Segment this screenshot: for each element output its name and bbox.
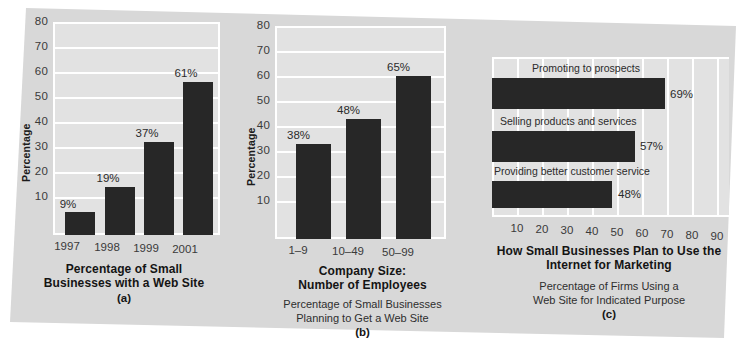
gridline-90	[717, 57, 719, 217]
chart-b-datalabel-1-9: 38%	[276, 129, 321, 141]
bar-10-49	[346, 119, 381, 239]
chart-b-ytick-60: 60	[250, 69, 270, 81]
chart-b-ytick-50: 50	[250, 94, 270, 106]
chart-b-ytick-70: 70	[250, 44, 270, 56]
chart-c-caption: Percentage of Firms Using a Web Site for…	[483, 280, 735, 307]
chart-a-title: Percentage of Small Businesses with a We…	[10, 262, 238, 290]
bar-selling-products-and-services	[492, 131, 635, 162]
chart-b-ytick-30: 30	[250, 144, 270, 156]
chart-b-xtick-50-99: 50–99	[373, 246, 423, 258]
chart-a-xtick-1999: 1999	[126, 242, 166, 254]
chart-c-datalabel-0: 69%	[670, 88, 693, 100]
chart-a-datalabel-1999: 37%	[127, 127, 167, 139]
chart-c-xtick-90: 90	[702, 230, 732, 242]
chart-a-xtick-1997: 1997	[47, 240, 87, 252]
chart-a-ytick-30: 30	[28, 140, 48, 152]
chart-b-letter: (b)	[250, 326, 475, 338]
gridline-70	[53, 47, 220, 49]
chart-a-ytick-20: 20	[28, 165, 48, 177]
axis-bottom	[492, 215, 729, 217]
axis-right	[444, 26, 446, 239]
gridline-70	[275, 51, 446, 53]
chart-b-datalabel-10-49: 48%	[326, 104, 371, 116]
bar-1998	[105, 187, 135, 235]
chart-a-ytick-50: 50	[28, 90, 48, 102]
chart-c-title: How Small Businesses Plan to Use the Int…	[483, 244, 735, 272]
chart-a-xtick-2001: 2001	[165, 243, 205, 255]
bar-1999	[144, 142, 174, 235]
chart-b-xtick-1-9: 1–9	[273, 244, 323, 256]
chart-c-datalabel-2: 48%	[618, 188, 641, 200]
chart-a-ytick-60: 60	[28, 65, 48, 77]
chart-b-caption: Percentage of Small Businesses Planning …	[250, 298, 475, 325]
gridline-80	[275, 26, 446, 28]
gridline-80	[53, 22, 220, 24]
chart-c-plot-area	[492, 57, 729, 217]
chart-b-ytick-10: 10	[250, 194, 270, 206]
chart-a-xtick-1998: 1998	[87, 241, 127, 253]
chart-c-barlabel-0: Promoting to prospects	[532, 62, 640, 74]
gridline-80	[692, 57, 694, 217]
axis-top	[492, 57, 729, 59]
bar-providing-better-customer-service	[492, 181, 612, 208]
gridline-70	[667, 57, 669, 217]
chart-c: Promoting to prospects Selling products …	[480, 0, 740, 355]
bar-50-99	[396, 76, 431, 239]
chart-b-title: Company Size: Number of Employees	[250, 264, 475, 292]
chart-b-ytick-40: 40	[250, 119, 270, 131]
bar-2001	[183, 82, 213, 235]
chart-a-datalabel-2001: 61%	[166, 67, 206, 79]
chart-a-ytick-70: 70	[28, 40, 48, 52]
chart-a-letter: (a)	[10, 292, 238, 304]
bar-1-9	[296, 144, 331, 239]
chart-c-barlabel-1: Selling products and services	[500, 115, 637, 127]
chart-b-ytick-20: 20	[250, 169, 270, 181]
chart-b-ytick-80: 80	[250, 19, 270, 31]
chart-b: Percentage 80 70 60 50 40 30 20 10 38% 4…	[245, 0, 480, 355]
chart-c-barlabel-2: Providing better customer service	[494, 165, 650, 177]
chart-a-datalabel-1998: 19%	[88, 172, 128, 184]
axis-right	[218, 22, 220, 235]
chart-c-letter: (c)	[483, 308, 735, 320]
bar-1997	[65, 212, 95, 235]
chart-a-ytick-10: 10	[28, 190, 48, 202]
chart-b-xtick-10-49: 10–49	[323, 245, 373, 257]
chart-a-ytick-80: 80	[28, 15, 48, 27]
chart-c-datalabel-1: 57%	[640, 140, 663, 152]
chart-b-datalabel-50-99: 65%	[376, 61, 421, 73]
chart-a-datalabel-1997: 9%	[50, 198, 86, 210]
bar-promoting-to-prospects	[492, 78, 665, 109]
chart-a: Percentage 80 70 60 50 40 30 20 10 9% 19…	[0, 0, 245, 355]
chart-a-ytick-40: 40	[28, 115, 48, 127]
